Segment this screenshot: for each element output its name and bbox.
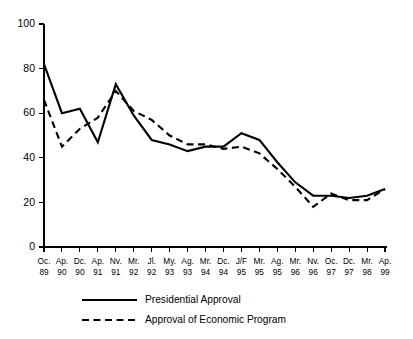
- x-tick-label-month-19: Ap.: [379, 256, 391, 266]
- x-tick-label-year-3: 91: [93, 267, 103, 277]
- x-tick-label-month-14: Mr.: [289, 256, 301, 266]
- x-tick-label-month-17: Dc.: [343, 256, 355, 266]
- x-tick-label-month-9: Mr.: [200, 256, 212, 266]
- x-tick-label-month-16: Oc.: [325, 256, 338, 266]
- x-tick-label-year-18: 98: [362, 267, 372, 277]
- x-tick-label-year-0: 89: [39, 267, 49, 277]
- x-tick-label-year-19: 99: [380, 267, 390, 277]
- y-tick-label-60: 60: [23, 106, 35, 118]
- x-tick-label-year-16: 97: [327, 267, 337, 277]
- series-line-economic-program: [44, 91, 385, 207]
- x-tick-label-year-14: 96: [291, 267, 301, 277]
- x-tick-label-month-11: J/F: [236, 256, 248, 266]
- x-tick-label-month-10: Dc.: [217, 256, 229, 266]
- x-tick-label-year-12: 95: [255, 267, 265, 277]
- x-tick-label-year-17: 97: [344, 267, 354, 277]
- chart-legend: Presidential ApprovalApproval of Economi…: [82, 294, 286, 325]
- x-tick-label-year-4: 91: [111, 267, 121, 277]
- x-tick-label-month-2: Dc.: [74, 256, 86, 266]
- x-tick-label-month-7: My.: [163, 256, 176, 266]
- x-tick-label-month-4: Nv.: [110, 256, 122, 266]
- x-tick-label-month-1: Ap.: [56, 256, 68, 266]
- x-tick-label-month-18: Mr.: [361, 256, 373, 266]
- x-tick-labels: Oc.89Ap.90Dc.90Ap.91Nv.91Mr.92Jl.92My.93…: [38, 256, 392, 277]
- legend-label-presidential-approval: Presidential Approval: [145, 294, 241, 305]
- legend-label-economic-program: Approval of Economic Program: [145, 314, 286, 325]
- x-tick-label-month-12: Mr.: [254, 256, 266, 266]
- x-tick-label-year-8: 93: [183, 267, 193, 277]
- series-line-presidential-approval: [44, 64, 385, 198]
- x-tick-label-year-9: 94: [201, 267, 211, 277]
- y-tick-label-20: 20: [23, 196, 35, 208]
- x-tick-label-year-1: 90: [57, 267, 67, 277]
- y-tick-label-0: 0: [29, 240, 35, 252]
- x-tick-label-month-0: Oc.: [38, 256, 51, 266]
- x-axis: [44, 247, 387, 252]
- x-tick-label-month-5: Mr.: [128, 256, 140, 266]
- x-tick-label-year-6: 92: [147, 267, 157, 277]
- x-tick-label-year-2: 90: [75, 267, 85, 277]
- x-tick-label-year-10: 94: [219, 267, 229, 277]
- x-tick-label-year-11: 95: [237, 267, 247, 277]
- x-tick-label-year-7: 93: [165, 267, 175, 277]
- chart-canvas: 020406080100 Oc.89Ap.90Dc.90Ap.91Nv.91Mr…: [0, 0, 413, 339]
- x-tick-label-year-13: 95: [273, 267, 283, 277]
- y-axis: 020406080100: [17, 17, 44, 252]
- approval-line-chart: 020406080100 Oc.89Ap.90Dc.90Ap.91Nv.91Mr…: [0, 0, 413, 339]
- x-tick-label-month-13: Ag.: [271, 256, 283, 266]
- x-tick-label-month-8: Ag.: [181, 256, 193, 266]
- x-tick-label-year-5: 92: [129, 267, 139, 277]
- series-lines: [44, 64, 385, 207]
- x-tick-label-month-6: Jl.: [148, 256, 156, 266]
- x-tick-label-year-15: 96: [309, 267, 319, 277]
- x-tick-label-month-15: Nv.: [307, 256, 319, 266]
- y-tick-label-100: 100: [17, 17, 35, 29]
- x-tick-label-month-3: Ap.: [92, 256, 104, 266]
- y-tick-label-40: 40: [23, 151, 35, 163]
- y-tick-label-80: 80: [23, 62, 35, 74]
